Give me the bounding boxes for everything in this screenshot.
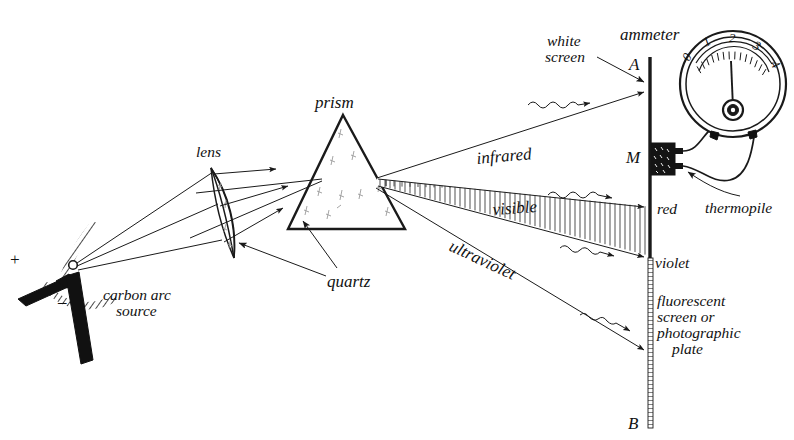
point-a-label: A <box>628 55 640 74</box>
ray-upper-lens-prism <box>214 169 276 174</box>
ammeter-label: ammeter <box>620 25 680 44</box>
thermopile-label: thermopile <box>705 199 772 216</box>
point-m-label: M <box>625 148 641 167</box>
fluorescent-screen-strip <box>648 258 653 428</box>
red-label: red <box>657 200 677 217</box>
rays-source-to-lens <box>77 172 222 270</box>
carbon-arc-source-label-line2: source <box>116 302 157 319</box>
wave-arrow-infrared <box>528 102 590 108</box>
ray-lower-source-lens <box>78 240 222 270</box>
prism-crystal-marks <box>304 129 390 219</box>
ultraviolet-label: ultraviolet <box>446 236 519 284</box>
spectrum-fan: infrared visible ultraviolet <box>376 92 648 350</box>
ammeter-terminal-left <box>710 131 719 140</box>
thermopile-lead-wire-lower <box>683 137 754 181</box>
quartz-lens: lens <box>196 143 235 258</box>
fluorescent-screen-label-line2: screen or <box>657 308 716 325</box>
diagram-canvas: + – carbon arc source lens <box>0 0 794 440</box>
fluorescent-screen-label-line1: fluorescent <box>657 292 726 309</box>
quartz-label: quartz <box>327 272 371 291</box>
ammeter-pivot-center <box>731 108 735 112</box>
white-screen-label-line2: screen <box>545 48 585 65</box>
thermopile-terminal-top <box>675 148 683 154</box>
rays-lens-to-prism <box>190 169 322 242</box>
carbon-arc-source: + – carbon arc source <box>9 225 171 364</box>
thermopile-callout-arrow <box>688 172 740 196</box>
ray-upper-source-lens <box>77 172 213 263</box>
carbon-arc-source-label-line1: carbon arc <box>103 286 171 303</box>
point-b-label: B <box>628 414 639 433</box>
ammeter-tick-label-2: 2 <box>729 30 736 45</box>
negative-electrode-bar <box>66 272 93 364</box>
fluorescent-screen-label-line4: plate <box>671 340 703 357</box>
violet-label: violet <box>655 254 690 271</box>
lens-label: lens <box>196 143 221 160</box>
thermopile-terminal-bottom <box>675 163 683 169</box>
positive-terminal-label: + <box>9 250 20 269</box>
ammeter-terminal-right <box>748 130 757 139</box>
quartz-prism: prism <box>288 93 405 229</box>
visible-label: visible <box>492 197 538 219</box>
white-screen-label-line1: white <box>547 32 581 49</box>
fluorescent-screen-label-line3: photographic <box>656 324 741 341</box>
negative-terminal-label: – <box>57 292 67 311</box>
quartz-arrow-to-lens <box>239 243 326 276</box>
arc-gap-source-point <box>69 261 78 270</box>
prism-label: prism <box>314 93 354 112</box>
quartz-callout: quartz <box>239 221 371 291</box>
